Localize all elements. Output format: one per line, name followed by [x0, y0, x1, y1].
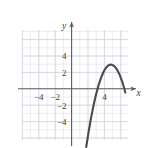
y-tick-label--4: −4	[57, 117, 67, 127]
x-tick-label-4: 4	[102, 92, 107, 102]
y-axis-label: y	[61, 21, 67, 31]
x-axis-label: x	[135, 88, 141, 98]
y-tick-label--2: −2	[57, 101, 67, 111]
graph-figure: −4 −2 4 4 2 −2 −4 y x	[0, 0, 152, 148]
coordinate-plane-svg: −4 −2 4 4 2 −2 −4 y x	[0, 0, 152, 148]
y-tick-label-2: 2	[62, 68, 67, 78]
plot-background	[22, 30, 128, 140]
y-tick-label-4: 4	[62, 51, 67, 61]
x-tick-label--4: −4	[34, 92, 44, 102]
